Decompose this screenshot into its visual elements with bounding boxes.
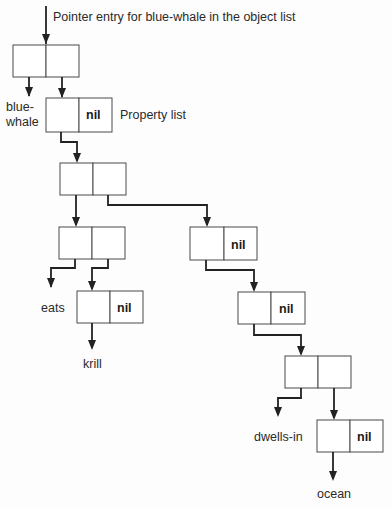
next-property-arrow-1 xyxy=(108,195,211,227)
car-cell xyxy=(190,227,224,260)
dwells-pair-arrow xyxy=(254,324,305,356)
cdr-arrow-to-plist xyxy=(58,77,66,98)
plist-spine-cons-cell-1 xyxy=(60,163,126,195)
dwells-in-label: dwells-in xyxy=(254,430,303,444)
plist-pointer-arrow xyxy=(61,132,81,163)
eats-pair-arrow xyxy=(72,195,80,227)
cdr-cell xyxy=(92,227,125,259)
eats-arrow xyxy=(47,259,75,288)
plist-head-cons-cell: nil xyxy=(46,98,112,132)
car-cell xyxy=(238,292,271,324)
car-cell xyxy=(317,420,350,452)
car-cell xyxy=(13,45,46,77)
plist-spine-cons-cell-2: nil xyxy=(190,227,257,260)
cdr-cell xyxy=(93,163,126,195)
eats-pair-cons-cell xyxy=(59,227,125,259)
ocean-list-cons-cell: nil xyxy=(317,420,383,452)
nil-marker: nil xyxy=(231,238,246,252)
lisp-property-list-diagram: Pointer entry for blue-whale in the obje… xyxy=(0,0,392,507)
symbol-name-label-2: whale xyxy=(5,115,39,129)
cdr-cell xyxy=(46,45,79,77)
cdr-cell xyxy=(318,356,351,388)
entry-pointer-arrow xyxy=(42,6,50,44)
nil-marker: nil xyxy=(357,430,372,444)
symbol-name-label-1: blue- xyxy=(6,100,34,114)
eats-label: eats xyxy=(41,301,65,315)
dwells-in-arrow xyxy=(274,388,301,417)
ocean-arrow xyxy=(329,452,337,481)
krill-arrow xyxy=(88,323,96,350)
ocean-label: ocean xyxy=(317,487,351,501)
nil-marker: nil xyxy=(279,302,294,316)
car-cell xyxy=(60,163,93,195)
object-cons-cell xyxy=(13,45,79,77)
nil-marker: nil xyxy=(117,301,132,315)
krill-list-arrow xyxy=(88,259,108,291)
car-cell xyxy=(59,227,92,259)
diagram-svg: Pointer entry for blue-whale in the obje… xyxy=(0,0,392,507)
plist-spine-cons-cell-3: nil xyxy=(238,292,305,324)
car-cell xyxy=(77,291,110,323)
krill-list-cons-cell: nil xyxy=(77,291,143,323)
property-list-label: Property list xyxy=(120,108,187,122)
ocean-list-arrow xyxy=(330,388,338,420)
car-arrow-to-name xyxy=(25,77,33,97)
next-property-arrow-2 xyxy=(206,260,258,292)
nil-marker: nil xyxy=(86,108,101,122)
krill-label: krill xyxy=(83,357,102,371)
car-cell xyxy=(285,356,318,388)
car-cell xyxy=(46,98,79,132)
diagram-title: Pointer entry for blue-whale in the obje… xyxy=(53,10,296,24)
dwells-pair-cons-cell xyxy=(285,356,351,388)
